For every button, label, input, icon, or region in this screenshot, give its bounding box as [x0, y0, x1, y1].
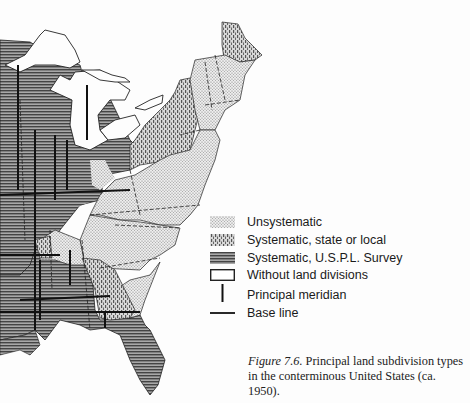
legend-item-principal-meridian: Principal meridian — [209, 287, 449, 303]
legend-label: Systematic, U.S.P.L. Survey — [247, 250, 402, 266]
unsystematic-swatch-icon — [210, 216, 235, 228]
legend-label: Base line — [247, 305, 298, 321]
legend-label: Principal meridian — [247, 287, 346, 303]
legend-item-base-line: Base line — [209, 305, 449, 321]
eastern-us-land-subdivision-map — [0, 0, 470, 403]
figure-label: Figure 7.6. — [248, 354, 303, 368]
legend-label: Without land divisions — [247, 267, 368, 283]
legend-item-unsystematic: Unsystematic — [209, 214, 449, 230]
horizontal-line-icon — [210, 307, 235, 319]
legend-label: Systematic, state or local — [247, 232, 386, 248]
legend-item-without-divisions: Without land divisions — [209, 267, 449, 283]
legend-label: Unsystematic — [247, 214, 322, 230]
vertical-line-icon — [210, 284, 235, 302]
legend-item-systematic-uspl: Systematic, U.S.P.L. Survey — [209, 250, 449, 266]
state-systematic-swatch-icon — [210, 234, 235, 246]
uspl-swatch-icon — [210, 252, 235, 264]
legend-item-systematic-state: Systematic, state or local — [209, 232, 449, 248]
empty-box-swatch-icon — [210, 269, 235, 281]
figure-caption: Figure 7.6. Principal land subdivision t… — [248, 354, 470, 399]
